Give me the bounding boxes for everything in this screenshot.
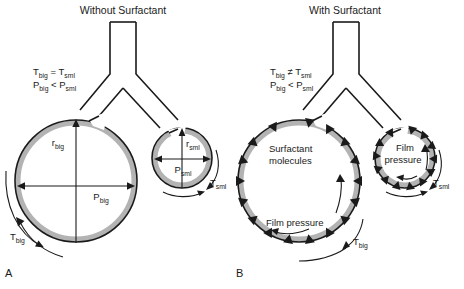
panel-a-radius-small-label: rsml: [186, 138, 200, 151]
panel-a-tension-big-label: Tbig: [10, 231, 25, 245]
panel-a-title: Without Surfactant: [80, 4, 166, 16]
panel-a-pressure-big-label: Pbig: [93, 191, 109, 205]
panel-a-equations: Tbig = Tsml Pbig < Psml: [33, 66, 77, 93]
panel-b-airway: [303, 22, 401, 128]
panel-a-label: A: [5, 267, 13, 279]
panel-b-tension-big-label: Tbig: [353, 236, 368, 250]
panel-b-tension-small-label: Tsml: [433, 177, 450, 190]
panel-b-title: With Surfactant: [309, 4, 381, 16]
panel-b-tension-equation: Tbig ≠ Tsml: [270, 66, 312, 80]
panel-a-tension-equation: Tbig = Tsml: [33, 66, 75, 80]
panel-b-film-pressure-big-label: Film pressure: [266, 217, 324, 228]
panel-b-pressure-equation: Pbig < Psml: [270, 79, 314, 93]
panel-b: With Surfactant Tbig ≠ Tsml Pbig < Psml: [236, 4, 450, 279]
panel-a-pressure-small-label: Psml: [175, 164, 192, 177]
panel-a-radius-big-label: rbig: [52, 137, 64, 151]
panel-a: Without Surfactant Tbig = Tsml Pbig < Ps…: [5, 4, 227, 279]
panel-a-tension-small-label: Tsml: [210, 177, 227, 190]
panel-b-surfactant-label-line2: molecules: [269, 155, 312, 166]
panel-b-equations: Tbig ≠ Tsml Pbig < Psml: [270, 66, 314, 93]
panel-a-pressure-equation: Pbig < Psml: [33, 79, 77, 93]
panel-b-film-pressure-small-line1: Film: [396, 142, 414, 153]
panel-a-airway: [80, 22, 178, 128]
panel-a-radius-big-arrow: [72, 119, 79, 243]
panel-b-film-pressure-small-line2: pressure: [385, 154, 422, 165]
panel-b-label: B: [236, 267, 243, 279]
alveoli-surfactant-figure: Without Surfactant Tbig = Tsml Pbig < Ps…: [0, 0, 464, 289]
panel-b-surfactant-label-line1: Surfactant: [269, 143, 313, 154]
